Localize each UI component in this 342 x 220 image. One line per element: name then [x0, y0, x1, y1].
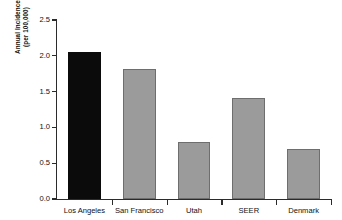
x-label-los-angeles: Los Angeles	[57, 206, 112, 215]
bar-seer[interactable]	[232, 98, 265, 199]
x-tick-mark	[167, 200, 168, 205]
bar-denmark[interactable]	[287, 149, 320, 199]
x-tick-mark	[331, 200, 332, 205]
bar-chart: Annual Incidence (per 100,000) 0.00.51.0…	[0, 0, 342, 220]
y-tick-label: 2.0	[16, 52, 50, 60]
y-tick-label: 0.0	[16, 195, 50, 203]
bar-utah[interactable]	[178, 142, 211, 199]
y-tick-label: 0.5	[16, 159, 50, 167]
x-label-seer: SEER	[221, 206, 276, 215]
bar-san-francisco[interactable]	[123, 69, 156, 199]
plot-area	[57, 20, 331, 199]
bar-los-angeles[interactable]	[68, 52, 101, 199]
x-label-utah: Utah	[167, 206, 222, 215]
y-axis-title-line-2: (per 100,000)	[22, 0, 30, 82]
x-axis-line	[56, 199, 332, 200]
y-axis-title-line-1: Annual Incidence	[14, 0, 22, 82]
y-axis-title: Annual Incidence (per 100,000)	[14, 0, 36, 82]
x-tick-mark	[221, 200, 222, 205]
x-label-denmark: Denmark	[276, 206, 331, 215]
y-tick-label: 1.0	[16, 123, 50, 131]
x-label-san-francisco: San Francisco	[112, 206, 167, 215]
x-tick-mark	[112, 200, 113, 205]
x-tick-mark	[276, 200, 277, 205]
y-tick-label: 2.5	[16, 16, 50, 24]
y-tick-label: 1.5	[16, 88, 50, 96]
